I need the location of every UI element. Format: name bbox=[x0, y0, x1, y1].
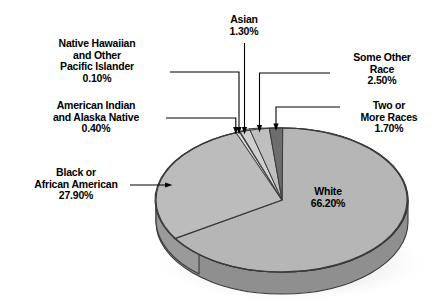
label-some-other-race-value: 2.50% bbox=[332, 75, 432, 87]
label-native-hawaiian-value: 0.10% bbox=[30, 73, 164, 85]
label-some-other-race: Some Other Race 2.50% bbox=[332, 52, 432, 87]
label-black-african-american-line1: Black or bbox=[22, 167, 130, 179]
label-american-indian: American Indian and Alaska Native 0.40% bbox=[28, 100, 164, 135]
label-two-or-more-races-line1: Two or bbox=[342, 100, 436, 112]
label-two-or-more-races: Two or More Races 1.70% bbox=[342, 100, 436, 135]
label-native-hawaiian: Native Hawaiian and Other Pacific Island… bbox=[30, 38, 164, 84]
label-white: White 66.20% bbox=[293, 186, 363, 209]
label-white-name: White bbox=[293, 186, 363, 198]
label-two-or-more-races-value: 1.70% bbox=[342, 123, 436, 135]
pie-chart-figure: Asian 1.30% Native Hawaiian and Other Pa… bbox=[0, 0, 440, 306]
leader-line-two-or-more-races bbox=[276, 107, 340, 126]
leader-line-native-hawaiian bbox=[170, 72, 239, 130]
label-asian: Asian 1.30% bbox=[199, 14, 289, 37]
label-black-african-american: Black or African American 27.90% bbox=[22, 167, 130, 202]
label-some-other-race-line1: Some Other bbox=[332, 52, 432, 64]
label-white-value: 66.20% bbox=[293, 198, 363, 210]
label-asian-name: Asian bbox=[199, 14, 289, 26]
label-native-hawaiian-line1: Native Hawaiian bbox=[30, 38, 164, 50]
label-american-indian-line1: American Indian bbox=[28, 100, 164, 112]
leader-line-american-indian bbox=[166, 118, 236, 130]
label-black-african-american-value: 27.90% bbox=[22, 190, 130, 202]
label-asian-value: 1.30% bbox=[199, 26, 289, 38]
label-american-indian-value: 0.40% bbox=[28, 123, 164, 135]
leader-line-some-other-race bbox=[260, 73, 331, 127]
